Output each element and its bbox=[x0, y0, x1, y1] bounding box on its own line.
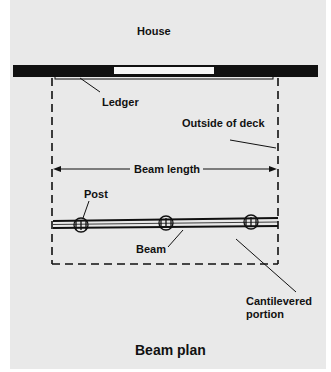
label-beam: Beam bbox=[136, 243, 166, 255]
ledger bbox=[55, 76, 273, 79]
label-cantilevered: Cantilevered bbox=[246, 295, 312, 307]
diagram-title: Beam plan bbox=[135, 342, 206, 358]
leader-lines bbox=[80, 78, 296, 292]
label-beam-length: Beam length bbox=[134, 163, 200, 175]
posts bbox=[74, 215, 258, 232]
label-post: Post bbox=[84, 188, 108, 200]
label-outside-of-deck: Outside of deck bbox=[182, 117, 265, 129]
beam-plan-diagram: House Ledger Outside of deck Beam length… bbox=[0, 0, 331, 372]
post-3 bbox=[244, 215, 258, 229]
label-house: House bbox=[137, 25, 171, 37]
house-wall bbox=[13, 65, 318, 77]
post-2 bbox=[159, 216, 173, 230]
post-1 bbox=[74, 218, 88, 232]
label-ledger: Ledger bbox=[102, 96, 139, 108]
label-portion: portion bbox=[246, 308, 284, 320]
